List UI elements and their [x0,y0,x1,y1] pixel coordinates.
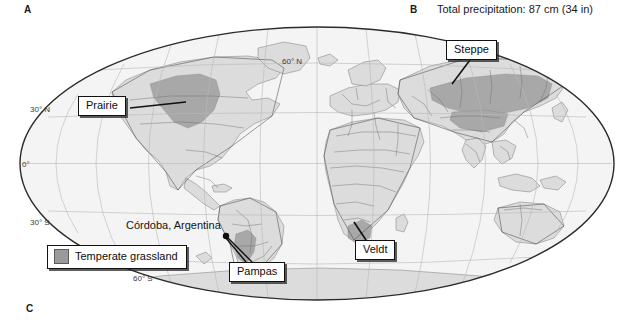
callout-veldt[interactable]: Veldt [355,240,395,260]
callout-prairie[interactable]: Prairie [78,96,126,116]
world-map: 60° N 30° N 0° 30° S 60° S [0,0,634,330]
lat-label-60s: 60° S [133,274,153,283]
legend-temperate-grassland: Temperate grassland [47,245,187,269]
lat-label-30n: 30° N [30,105,50,114]
legend-swatch-icon [54,249,69,264]
label-cordoba-argentina: Córdoba, Argentina [126,219,221,231]
world-map-svg: 60° N 30° N 0° 30° S 60° S [0,0,634,330]
lat-label-0: 0° [22,160,30,169]
lat-label-60n: 60° N [282,57,302,66]
figure-container: A B Total precipitation: 87 cm (34 in) C [0,0,634,330]
callout-steppe[interactable]: Steppe [446,40,497,60]
lat-label-30s: 30° S [30,218,50,227]
callout-pampas[interactable]: Pampas [229,262,285,282]
legend-label: Temperate grassland [75,250,178,263]
